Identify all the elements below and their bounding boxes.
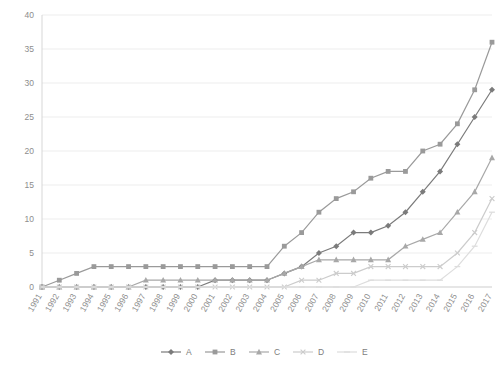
- x-tick-label-2016: 2016: [458, 292, 476, 314]
- y-tick-label-30: 30: [25, 78, 35, 88]
- marker-B-1993: [74, 271, 79, 276]
- x-tick-label-1996: 1996: [112, 292, 130, 314]
- marker-A-2016: [472, 114, 478, 120]
- x-tick-labels-group: 1991199219931994199519961997199819992000…: [26, 292, 494, 314]
- x-tick-label-1999: 1999: [164, 292, 182, 314]
- y-tick-label-25: 25: [25, 112, 35, 122]
- marker-B-2006: [299, 230, 304, 235]
- y-tick-label-10: 10: [25, 214, 35, 224]
- marker-B-2016: [472, 87, 477, 92]
- x-tick-label-2007: 2007: [303, 292, 321, 314]
- legend-marker-B: [213, 350, 218, 355]
- x-tick-label-1994: 1994: [78, 292, 96, 314]
- line-chart: 0510152025303540199119921993199419951996…: [0, 0, 503, 367]
- x-tick-label-2008: 2008: [320, 292, 338, 314]
- marker-B-1995: [109, 264, 114, 269]
- legend-label-C: C: [274, 347, 280, 357]
- x-tick-label-2003: 2003: [233, 292, 251, 314]
- marker-A-2017: [489, 87, 495, 93]
- y-tick-label-20: 20: [25, 146, 35, 156]
- y-tick-label-15: 15: [25, 180, 35, 190]
- marker-B-2008: [334, 196, 339, 201]
- marker-B-1996: [126, 264, 131, 269]
- marker-B-2003: [247, 264, 252, 269]
- marker-B-2005: [282, 244, 287, 249]
- x-tick-label-2017: 2017: [476, 292, 494, 314]
- marker-B-2001: [213, 264, 218, 269]
- marker-B-2011: [386, 169, 391, 174]
- legend-label-B: B: [230, 347, 236, 357]
- series-C: [39, 155, 495, 290]
- marker-B-2002: [230, 264, 235, 269]
- marker-B-2017: [490, 40, 495, 45]
- x-tick-label-2005: 2005: [268, 292, 286, 314]
- series-E: [39, 212, 495, 287]
- marker-B-2000: [195, 264, 200, 269]
- marker-B-1999: [178, 264, 183, 269]
- x-tick-label-2012: 2012: [389, 292, 407, 314]
- x-tick-label-1997: 1997: [129, 292, 147, 314]
- x-tick-label-2001: 2001: [199, 292, 217, 314]
- series-B: [40, 40, 495, 290]
- legend-label-A: A: [186, 347, 192, 357]
- chart-canvas: 0510152025303540199119921993199419951996…: [0, 0, 503, 367]
- marker-A-2015: [454, 141, 460, 147]
- x-tick-label-2013: 2013: [406, 292, 424, 314]
- marker-B-2009: [351, 189, 356, 194]
- marker-B-2004: [265, 264, 270, 269]
- marker-B-2007: [317, 210, 322, 215]
- marker-B-1997: [143, 264, 148, 269]
- series-D: [40, 196, 495, 289]
- x-tick-label-2002: 2002: [216, 292, 234, 314]
- series-line-D: [42, 199, 492, 287]
- marker-B-2015: [455, 121, 460, 126]
- x-tick-label-1991: 1991: [26, 292, 44, 314]
- marker-B-1998: [161, 264, 166, 269]
- x-tick-label-2015: 2015: [441, 292, 459, 314]
- x-tick-label-2011: 2011: [372, 292, 390, 313]
- x-tick-label-1992: 1992: [43, 292, 61, 314]
- y-tick-label-40: 40: [25, 10, 35, 20]
- series-line-B: [42, 42, 492, 287]
- x-tick-label-2009: 2009: [337, 292, 355, 314]
- marker-B-2013: [420, 149, 425, 154]
- marker-C-2016: [472, 189, 478, 195]
- marker-B-1992: [57, 278, 62, 283]
- x-tick-label-2010: 2010: [354, 292, 372, 314]
- marker-A-2010: [368, 230, 374, 236]
- chart-legend: ABCDE: [161, 347, 368, 357]
- y-tick-label-0: 0: [29, 282, 34, 292]
- x-tick-label-2014: 2014: [424, 292, 442, 314]
- x-tick-label-2006: 2006: [285, 292, 303, 314]
- y-tick-label-5: 5: [29, 248, 34, 258]
- marker-B-2010: [368, 176, 373, 181]
- x-tick-label-2000: 2000: [181, 292, 199, 314]
- marker-B-2014: [438, 142, 443, 147]
- x-tick-label-1998: 1998: [147, 292, 165, 314]
- legend-label-D: D: [318, 347, 324, 357]
- x-tick-label-1993: 1993: [60, 292, 78, 314]
- legend-marker-A: [168, 349, 174, 355]
- x-tick-label-2004: 2004: [251, 292, 269, 314]
- marker-D-2017: [490, 196, 495, 201]
- marker-B-1994: [92, 264, 97, 269]
- legend-label-E: E: [362, 347, 368, 357]
- marker-D-2016: [472, 230, 477, 235]
- marker-B-2012: [403, 169, 408, 174]
- series-line-A: [42, 90, 492, 287]
- series-line-E: [42, 212, 492, 287]
- x-tick-label-1995: 1995: [95, 292, 113, 314]
- y-tick-label-35: 35: [25, 44, 35, 54]
- marker-C-2017: [489, 155, 495, 161]
